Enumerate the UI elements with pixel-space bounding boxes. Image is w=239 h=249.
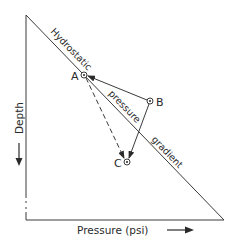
pressure-arrow-right-icon [167,227,194,234]
point-c [124,159,130,165]
point-c-label: C [114,157,122,170]
depth-arrow-down-icon [16,143,23,166]
point-a [81,72,87,78]
depth-axis-label: Depth [13,102,25,134]
gradient-label-pressure: pressure [107,88,144,125]
pressure-depth-diagram: Hydrostatic pressure gradient A B C Dept… [0,0,239,249]
gradient-label-gradient: gradient [150,134,186,171]
hydrostatic-gradient-line [26,15,224,220]
point-b [147,98,153,104]
point-b-label: B [156,96,164,109]
pressure-axis-label: Pressure (psi) [77,224,148,236]
gradient-label-hydrostatic: Hydrostatic [49,26,95,73]
point-a-label: A [71,70,79,83]
arrow-a-to-c [86,78,124,158]
